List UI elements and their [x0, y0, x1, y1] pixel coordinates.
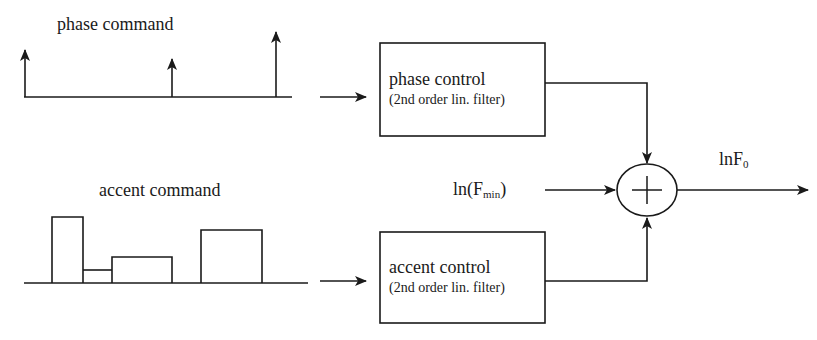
- accent-output-line: [545, 218, 647, 281]
- summing-junction: [617, 164, 677, 216]
- accent-pulse-3: [112, 257, 172, 283]
- output-label: lnF0: [719, 150, 749, 168]
- phase-control-subtitle: (2nd order lin. filter): [389, 93, 505, 107]
- accent-pulse-1: [52, 217, 83, 283]
- phase-command-label: phase command: [57, 15, 173, 33]
- output-prefix: lnF: [719, 149, 743, 169]
- accent-control-subtitle: (2nd order lin. filter): [389, 281, 505, 295]
- output-subscript: 0: [743, 158, 749, 170]
- baseline-frequency-suffix: ): [500, 179, 506, 199]
- phase-command-signal: [24, 32, 292, 97]
- baseline-frequency-prefix: ln(F: [453, 179, 483, 199]
- baseline-frequency-subscript: min: [483, 188, 500, 200]
- baseline-frequency-label: ln(Fmin): [453, 180, 506, 198]
- accent-command-label: accent command: [99, 181, 220, 199]
- phase-control-title: phase control: [389, 70, 485, 88]
- phase-control-box: [380, 43, 545, 136]
- accent-control-box: [380, 232, 545, 323]
- accent-control-title: accent control: [389, 258, 490, 276]
- phase-output-line: [545, 83, 647, 163]
- accent-pulse-4: [201, 230, 262, 283]
- accent-command-signal: [24, 217, 308, 283]
